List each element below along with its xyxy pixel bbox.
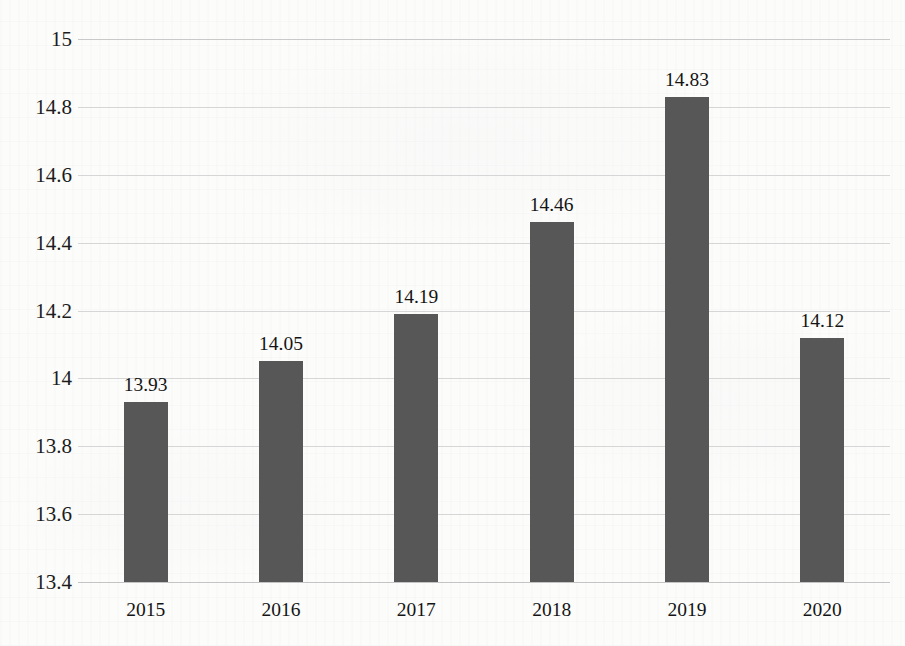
x-axis-tick-label: 2018 xyxy=(507,600,597,620)
x-axis-tick-label: 2017 xyxy=(371,600,461,620)
x-axis-tick-label: 2015 xyxy=(101,600,191,620)
bar[interactable] xyxy=(124,402,168,582)
bar[interactable] xyxy=(259,361,303,582)
y-axis-tick-label: 14.8 xyxy=(12,97,72,118)
y-axis-tick-label: 13.8 xyxy=(12,436,72,457)
y-axis-tick-label: 15 xyxy=(12,29,72,50)
gridline xyxy=(78,378,890,379)
bar-value-label: 14.05 xyxy=(236,334,326,354)
bar[interactable] xyxy=(530,222,574,582)
gridline xyxy=(78,514,890,515)
x-axis-tick-label: 2020 xyxy=(777,600,867,620)
bar-value-label: 13.93 xyxy=(101,375,191,395)
x-axis-tick-label: 2019 xyxy=(642,600,732,620)
bar[interactable] xyxy=(394,314,438,582)
x-axis-tick-label: 2016 xyxy=(236,600,326,620)
bar-chart: 1514.814.614.414.21413.813.613.4 13.9314… xyxy=(0,0,905,646)
y-axis-tick-label: 14.6 xyxy=(12,165,72,186)
y-axis-tick-label: 14.2 xyxy=(12,301,72,322)
bar-value-label: 14.46 xyxy=(507,195,597,215)
bar[interactable] xyxy=(800,338,844,582)
bar[interactable] xyxy=(665,97,709,582)
bar-value-label: 14.12 xyxy=(777,311,867,331)
y-axis-tick-label: 14 xyxy=(12,368,72,389)
bar-value-label: 14.83 xyxy=(642,70,732,90)
gridline xyxy=(78,175,890,176)
gridline xyxy=(78,107,890,108)
gridline xyxy=(78,446,890,447)
plot-area: 13.9314.0514.1914.4614.8314.12 xyxy=(78,39,890,582)
gridline xyxy=(78,311,890,312)
bar-value-label: 14.19 xyxy=(371,287,461,307)
y-axis-tick-label: 13.6 xyxy=(12,504,72,525)
gridline xyxy=(78,243,890,244)
gridline xyxy=(78,582,890,583)
gridline xyxy=(78,39,890,40)
y-axis-tick-label: 13.4 xyxy=(12,572,72,593)
y-axis-tick-label: 14.4 xyxy=(12,233,72,254)
